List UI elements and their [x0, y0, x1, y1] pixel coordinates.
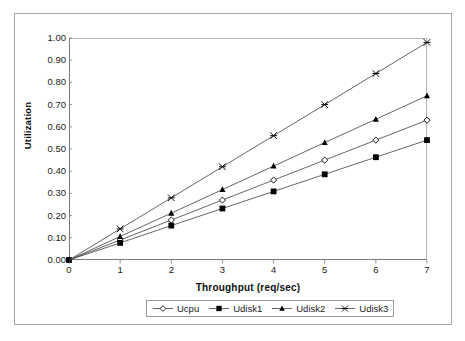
data-point-marker [373, 154, 379, 160]
data-point-marker [271, 189, 277, 195]
x-tick-label: 7 [417, 264, 437, 276]
x-axis-title: Throughput (req/sec) [69, 282, 427, 293]
data-point-marker [321, 101, 328, 108]
legend-label: Udisk2 [296, 303, 325, 314]
data-point-marker [424, 137, 430, 143]
legend-marker-star-x-icon [334, 303, 356, 314]
data-point-marker [168, 195, 175, 202]
series-line [69, 42, 427, 260]
chart-legend: UcpuUdisk1Udisk2Udisk3 [146, 300, 394, 317]
y-tick-label: 0.10 [26, 233, 66, 243]
data-point-marker [117, 240, 123, 246]
data-point-marker [219, 186, 225, 192]
series-udisk3 [69, 39, 430, 260]
data-point-marker [160, 306, 166, 312]
data-point-marker [270, 177, 276, 183]
data-point-marker [117, 226, 124, 233]
data-point-marker [372, 70, 379, 77]
data-point-marker [342, 305, 348, 311]
series-line [69, 96, 427, 260]
x-axis-tick-labels: 01234567 [69, 264, 427, 278]
data-point-marker [271, 163, 277, 169]
data-point-marker [168, 210, 174, 216]
series-udisk1 [66, 137, 430, 263]
legend-entry-ucpu[interactable]: Ucpu [152, 303, 199, 314]
y-axis-title: Utilization [22, 81, 33, 171]
y-tick-label: 0.30 [26, 188, 66, 198]
x-tick-label: 0 [59, 264, 79, 276]
data-point-marker [219, 197, 225, 203]
legend-label: Udisk1 [233, 303, 262, 314]
legend-marker-filled-triangle-icon [271, 303, 293, 314]
legend-label: Udisk3 [359, 303, 388, 314]
chart-figure: 0.000.100.200.300.400.500.600.700.800.90… [0, 0, 465, 341]
series-ucpu [69, 117, 430, 260]
x-tick-label: 4 [264, 264, 284, 276]
data-point-marker [373, 116, 379, 122]
data-point-marker [373, 137, 379, 143]
x-tick-label: 5 [315, 264, 335, 276]
y-tick-label: 0.20 [26, 211, 66, 221]
data-point-marker [217, 306, 222, 311]
x-tick-label: 3 [212, 264, 232, 276]
data-point-marker [168, 217, 174, 223]
data-point-marker [219, 163, 226, 170]
data-point-marker [168, 223, 174, 229]
legend-entry-udisk3[interactable]: Udisk3 [334, 303, 388, 314]
data-point-marker [322, 157, 328, 163]
legend-marker-filled-square-icon [208, 303, 230, 314]
x-tick-label: 1 [110, 264, 130, 276]
y-tick-label: 1.00 [26, 33, 66, 43]
legend-entry-udisk1[interactable]: Udisk1 [208, 303, 262, 314]
data-point-marker [322, 171, 328, 177]
data-point-marker [322, 139, 328, 145]
legend-label: Ucpu [177, 303, 199, 314]
data-point-marker [270, 132, 277, 139]
x-tick-label: 6 [366, 264, 386, 276]
plot-canvas [69, 38, 427, 260]
y-tick-label: 0.90 [26, 55, 66, 65]
data-point-marker [117, 233, 123, 239]
data-point-marker [220, 206, 226, 212]
legend-entry-udisk2[interactable]: Udisk2 [271, 303, 325, 314]
series-udisk2 [69, 92, 430, 260]
legend-marker-open-diamond-icon [152, 303, 174, 314]
x-tick-label: 2 [161, 264, 181, 276]
